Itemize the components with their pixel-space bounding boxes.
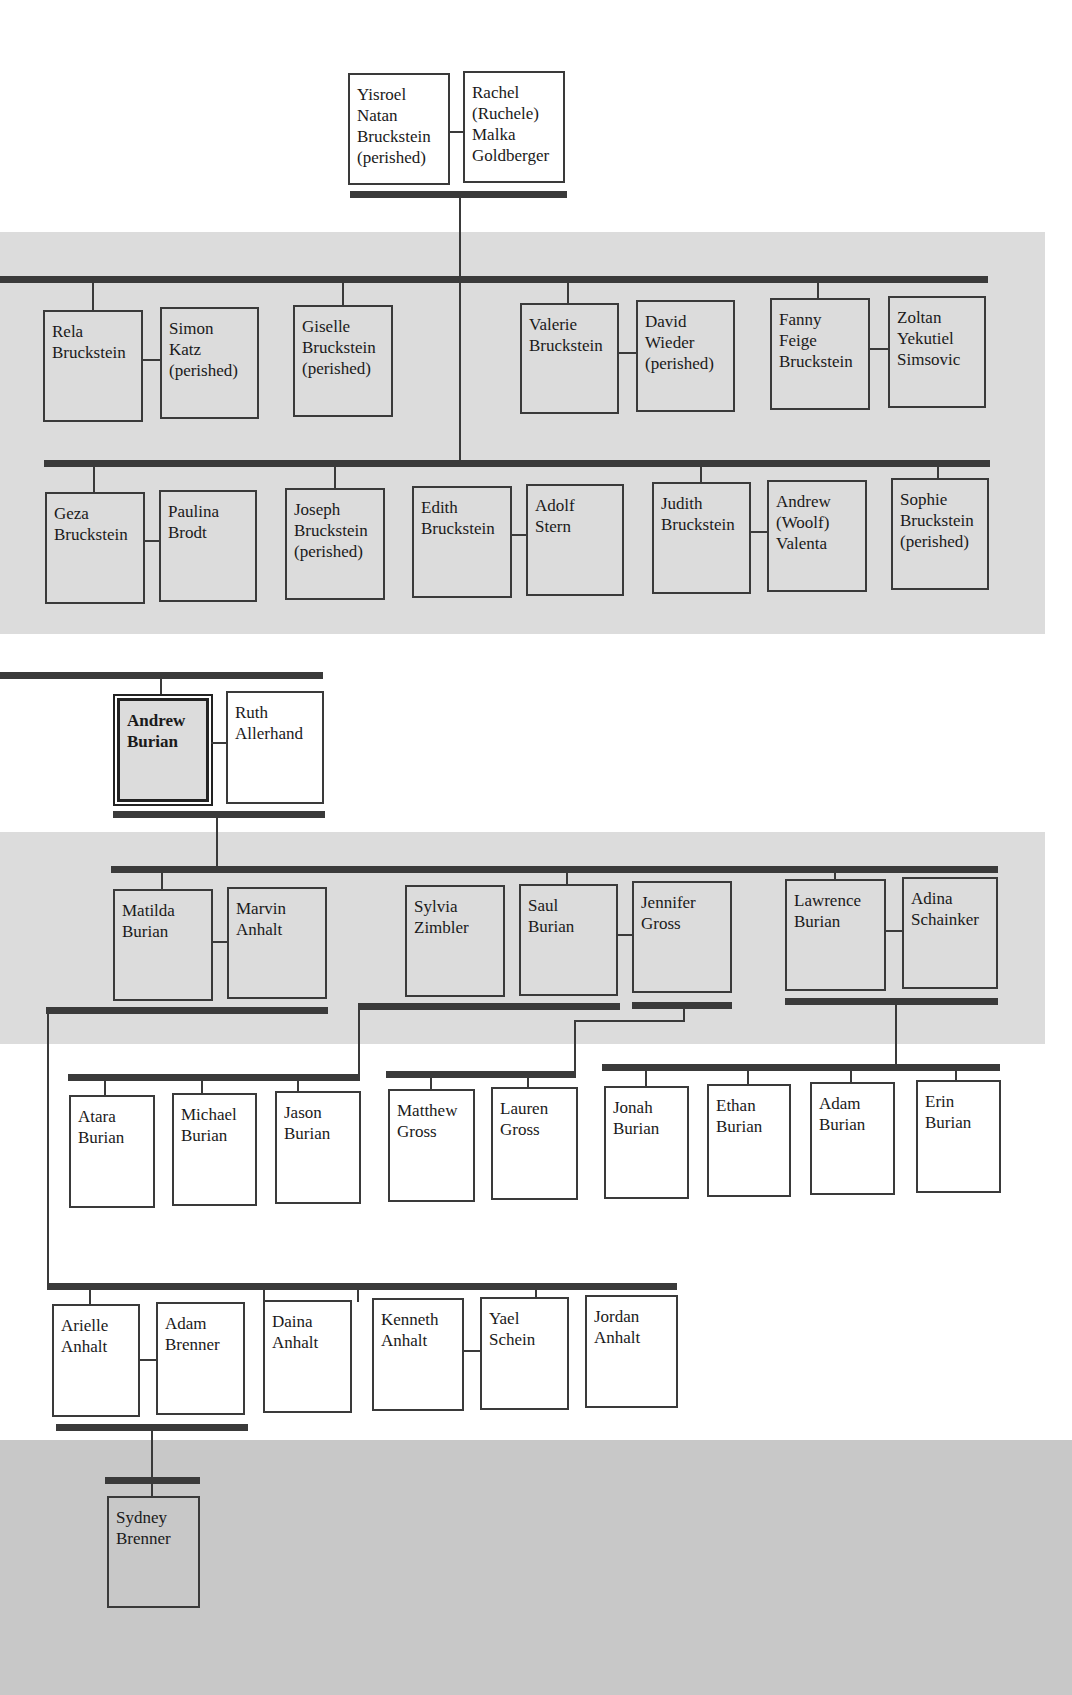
person-box: Judith Bruckstein	[652, 482, 751, 594]
person-box: Zoltan Yekutiel Simsovic	[888, 296, 986, 408]
descent-line	[151, 1430, 153, 1500]
descent-line	[93, 466, 95, 492]
descent-line	[459, 196, 461, 466]
person-box: Jonah Burian	[604, 1086, 689, 1199]
family-bar	[105, 1477, 200, 1484]
marriage-line	[886, 930, 903, 932]
person-box: Jason Burian	[275, 1091, 361, 1204]
person-box: Erin Burian	[916, 1080, 1001, 1193]
person-box: David Wieder (perished)	[636, 300, 735, 412]
descent-line	[92, 282, 94, 310]
person-box: Matthew Gross	[388, 1089, 475, 1202]
marriage-line	[870, 348, 888, 350]
person-box: Jennifer Gross	[632, 881, 732, 993]
person-box: Kenneth Anhalt	[372, 1298, 464, 1411]
person-box: Adolf Stern	[526, 484, 624, 596]
person-box: Sylvia Zimbler	[405, 885, 505, 997]
person-box: Sophie Bruckstein (perished)	[891, 478, 989, 590]
person-box: Edith Bruckstein	[412, 486, 512, 598]
descent-line	[357, 1289, 359, 1302]
person-box: Ruth Allerhand	[226, 691, 324, 804]
family-bar	[113, 811, 325, 818]
person-box: Geza Bruckstein	[45, 492, 145, 604]
marriage-line	[143, 359, 160, 361]
marriage-line	[751, 531, 767, 533]
descent-line	[895, 1004, 897, 1064]
person-box: Yisroel Natan Bruckstein (perished)	[348, 73, 450, 185]
descent-line	[89, 1289, 91, 1304]
sibling-bar	[111, 866, 998, 873]
person-box: Simon Katz (perished)	[160, 307, 259, 419]
person-box: Sydney Brenner	[107, 1496, 200, 1608]
person-box: Adina Schainker	[902, 877, 998, 989]
person-box: Joseph Bruckstein (perished)	[285, 488, 385, 600]
family-bar	[632, 1002, 732, 1009]
person-box: Daina Anhalt	[263, 1300, 352, 1413]
person-box: Fanny Feige Bruckstein	[770, 298, 870, 410]
marriage-line	[213, 941, 228, 943]
family-bar	[358, 1003, 620, 1010]
marriage-line	[618, 934, 633, 936]
descent-line	[358, 1008, 360, 1078]
person-box: Rachel (Ruchele) Malka Goldberger	[463, 71, 565, 183]
marriage-line	[145, 540, 160, 542]
descent-line	[160, 678, 162, 695]
marriage-line	[619, 352, 636, 354]
descent-line	[567, 282, 569, 304]
descent-line	[216, 817, 218, 869]
marriage-line	[464, 1350, 480, 1352]
descent-line	[342, 282, 344, 307]
descent-line	[104, 1080, 106, 1096]
family-bar	[785, 998, 998, 1005]
sibling-bar	[68, 1074, 360, 1081]
person-box: Paulina Brodt	[159, 490, 257, 602]
family-bar	[46, 1007, 328, 1014]
person-box: Valerie Bruckstein	[520, 303, 619, 414]
sibling-bar	[44, 460, 990, 467]
sibling-bar	[386, 1071, 576, 1078]
person-box: Lauren Gross	[491, 1087, 578, 1200]
sibling-bar	[0, 276, 988, 283]
person-box: Adam Brenner	[156, 1302, 245, 1415]
person-box: Ethan Burian	[707, 1084, 791, 1197]
person-box: Yael Schein	[480, 1297, 569, 1410]
descent-line	[334, 466, 336, 488]
person-box: Michael Burian	[172, 1093, 257, 1206]
person-box: Giselle Bruckstein (perished)	[293, 305, 393, 417]
person-box: Atara Burian	[69, 1095, 155, 1208]
marriage-line	[211, 742, 227, 744]
person-box: Jordan Anhalt	[585, 1295, 678, 1408]
marriage-line	[450, 131, 463, 133]
person-box: Matilda Burian	[113, 889, 213, 1001]
person-box: Adam Burian	[810, 1082, 895, 1195]
descent-line	[47, 1013, 49, 1286]
focus-person-box: Andrew Burian	[117, 698, 209, 802]
descent-line	[161, 872, 163, 889]
descent-line	[574, 1020, 685, 1022]
descent-line	[574, 1020, 576, 1072]
sibling-bar	[47, 1283, 677, 1290]
generation-band-2	[0, 232, 1045, 634]
person-box: Andrew (Woolf) Valenta	[767, 480, 867, 592]
person-box: Saul Burian	[519, 884, 618, 996]
person-box: Arielle Anhalt	[52, 1304, 140, 1417]
person-box: Rela Bruckstein	[43, 310, 143, 422]
marriage-line	[512, 534, 527, 536]
person-box: Marvin Anhalt	[227, 887, 327, 999]
sibling-bar	[602, 1064, 1000, 1071]
marriage-line	[140, 1359, 156, 1361]
person-box: Lawrence Burian	[785, 879, 886, 991]
